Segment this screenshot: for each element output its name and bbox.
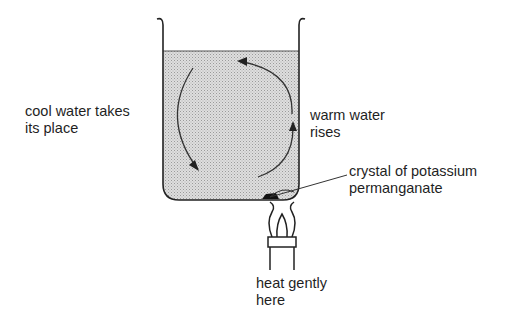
label-crystal-line1: crystal of potassium xyxy=(349,163,477,180)
label-heat-line1: heat gently xyxy=(256,275,327,292)
label-crystal: crystal of potassium permanganate xyxy=(349,163,477,197)
label-cool-water-line1: cool water takes xyxy=(25,103,130,120)
label-warm-water: warm water rises xyxy=(310,107,385,141)
water xyxy=(163,51,299,200)
label-heat: heat gently here xyxy=(256,275,327,309)
burner xyxy=(268,237,296,270)
label-warm-water-line1: warm water xyxy=(310,107,385,124)
label-crystal-line2: permanganate xyxy=(349,180,477,197)
label-cool-water-line2: its place xyxy=(25,120,130,137)
label-warm-water-line2: rises xyxy=(310,124,385,141)
label-heat-line2: here xyxy=(256,292,327,309)
burner-flame xyxy=(269,202,295,237)
label-cool-water: cool water takes its place xyxy=(25,103,130,137)
